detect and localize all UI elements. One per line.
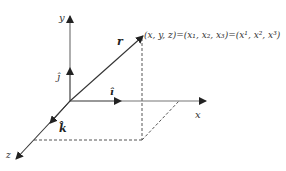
point-coordinates-label: (x, y, z)=(x₁, x₂, x₃)=(x¹, x², x³)	[144, 30, 281, 40]
x-axis-label: x	[195, 109, 201, 120]
i-unit-label: î	[110, 86, 115, 97]
k-unit-label: k̂	[59, 121, 67, 135]
k-unit-vector	[52, 101, 70, 121]
projection-lines	[34, 38, 179, 140]
coordinate-diagram: y x z ĵ î k̂ r (x, y, z)=(x₁, x₂, x₃)=(x…	[0, 0, 286, 171]
y-axis-label: y	[58, 12, 65, 23]
z-axis-label: z	[5, 150, 11, 160]
position-vector-r	[70, 36, 143, 101]
r-vector-label: r	[117, 35, 124, 48]
j-unit-label: ĵ	[55, 71, 61, 82]
z-parallel-projection	[142, 101, 179, 140]
